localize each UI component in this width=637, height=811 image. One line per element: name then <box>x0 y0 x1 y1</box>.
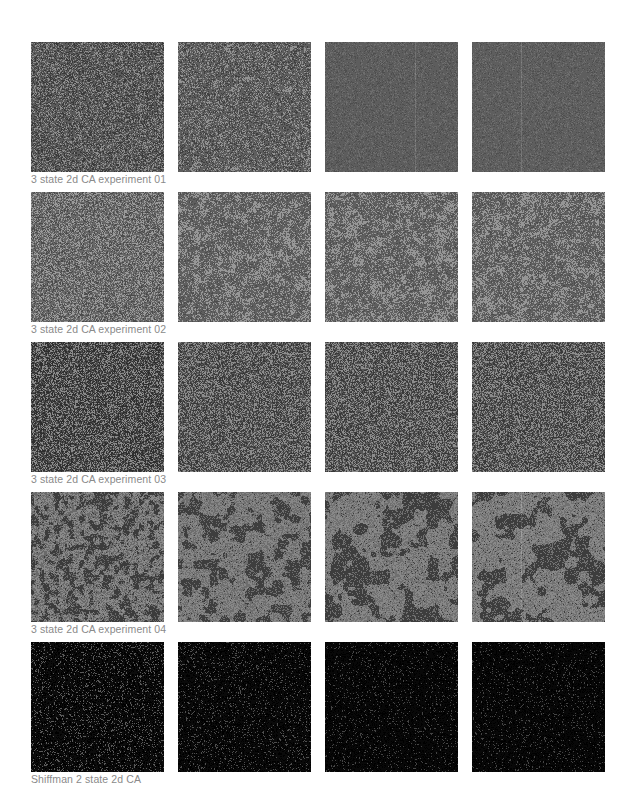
row-caption: 3 state 2d CA experiment 03 <box>31 473 166 485</box>
ca-image[interactable] <box>178 192 311 322</box>
ca-image[interactable] <box>178 642 311 772</box>
tile-strip <box>31 42 606 172</box>
ca-image[interactable] <box>472 192 605 322</box>
ca-image[interactable] <box>31 642 164 772</box>
row-caption: Shiffman 2 state 2d CA <box>31 773 141 785</box>
ca-image[interactable] <box>472 642 605 772</box>
ca-gallery: 3 state 2d CA experiment 01 3 state 2d C… <box>0 0 637 811</box>
ca-image[interactable] <box>31 342 164 472</box>
ca-image[interactable] <box>325 192 458 322</box>
ca-image[interactable] <box>31 492 164 622</box>
ca-image[interactable] <box>325 42 458 172</box>
ca-image[interactable] <box>472 342 605 472</box>
gallery-row-experiment-03: 3 state 2d CA experiment 03 <box>31 342 606 492</box>
ca-image[interactable] <box>472 492 605 622</box>
ca-image[interactable] <box>31 42 164 172</box>
ca-image[interactable] <box>325 642 458 772</box>
tile-strip <box>31 492 606 622</box>
ca-image[interactable] <box>178 342 311 472</box>
gallery-row-experiment-01: 3 state 2d CA experiment 01 <box>31 42 606 192</box>
tile-strip <box>31 642 606 772</box>
tile-strip <box>31 342 606 472</box>
row-caption: 3 state 2d CA experiment 02 <box>31 323 166 335</box>
gallery-row-experiment-02: 3 state 2d CA experiment 02 <box>31 192 606 342</box>
tile-strip <box>31 192 606 322</box>
gallery-row-experiment-04: 3 state 2d CA experiment 04 <box>31 492 606 642</box>
ca-image[interactable] <box>178 42 311 172</box>
row-caption: 3 state 2d CA experiment 04 <box>31 623 166 635</box>
ca-image[interactable] <box>325 492 458 622</box>
row-caption: 3 state 2d CA experiment 01 <box>31 173 166 185</box>
ca-image[interactable] <box>31 192 164 322</box>
ca-image[interactable] <box>325 342 458 472</box>
gallery-row-shiffman: Shiffman 2 state 2d CA <box>31 642 606 792</box>
ca-image[interactable] <box>178 492 311 622</box>
ca-image[interactable] <box>472 42 605 172</box>
